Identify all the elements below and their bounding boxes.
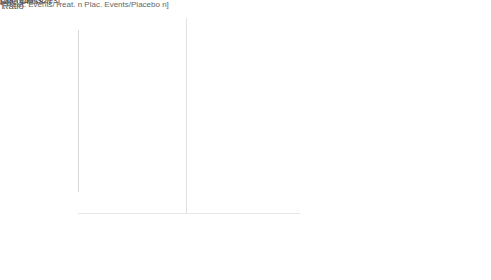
y-axis-spine bbox=[78, 30, 79, 192]
footnote: *[Treat. Events/Treat. n Plac. Events/Pl… bbox=[0, 0, 169, 9]
x-axis-line bbox=[78, 213, 300, 214]
reference-line-at-one bbox=[186, 18, 187, 213]
forest-plot: Odds Ratio Age Class OR (95% CI) [Sample… bbox=[0, 0, 491, 280]
